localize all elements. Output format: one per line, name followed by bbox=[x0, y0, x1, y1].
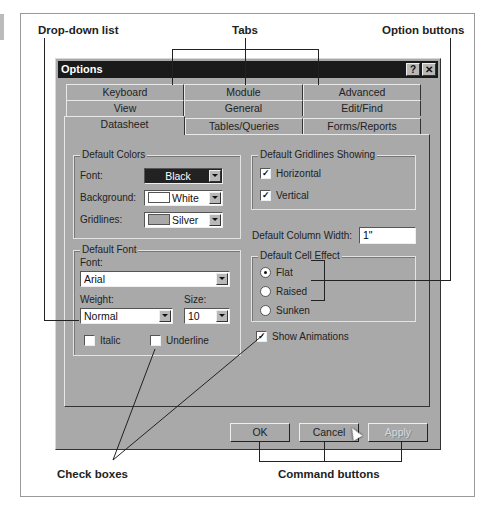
tab-datasheet[interactable]: Datasheet bbox=[64, 116, 185, 135]
check-boxes-callout-lines bbox=[0, 0, 494, 513]
